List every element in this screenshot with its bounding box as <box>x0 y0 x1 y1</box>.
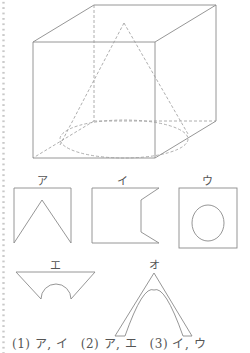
answer-option-3: (3) イ, ウ <box>150 337 206 351</box>
answer-option-2: (2) ア, エ <box>81 337 137 351</box>
choice-label-o: オ <box>149 256 160 272</box>
choice-label-e: エ <box>50 256 61 272</box>
choice-label-a: ア <box>37 172 48 188</box>
answer-options: (1) ア, イ (2) ア, エ (3) イ, ウ <box>12 334 214 351</box>
choice-label-u: ウ <box>202 172 213 188</box>
answer-option-1: (1) ア, イ <box>12 337 68 351</box>
cube-solid-edges <box>33 5 216 158</box>
choice-label-i: イ <box>117 172 128 188</box>
choice-shapes <box>14 188 237 336</box>
cube-hidden-edges <box>33 5 216 158</box>
